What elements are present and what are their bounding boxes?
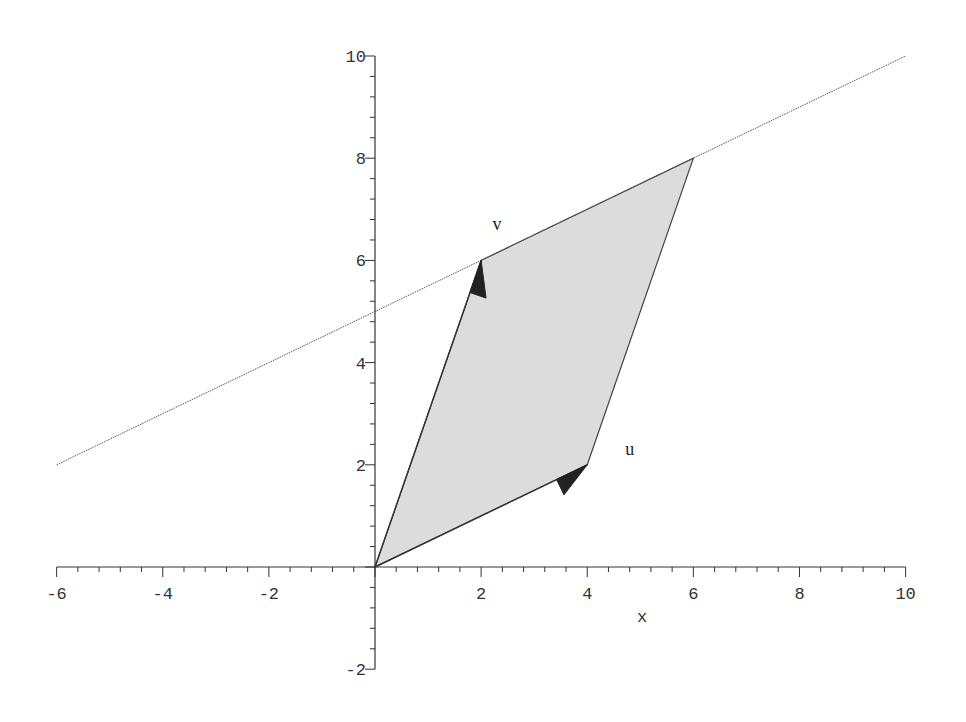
vector-parallelogram-plot: -6-4-2246810-2246810x uv (0, 0, 966, 722)
x-tick-label: -4 (153, 585, 173, 604)
parallelogram (375, 158, 693, 567)
x-tick-label: 6 (688, 585, 698, 604)
parallelogram-shape (375, 158, 693, 567)
x-axis-label: x (637, 608, 647, 627)
y-tick-label: 10 (346, 48, 366, 67)
y-tick-label: 6 (356, 252, 366, 271)
x-tick-label: -6 (46, 585, 66, 604)
vector-label-u: u (625, 439, 634, 459)
vector-label-v: v (493, 214, 502, 234)
x-tick-label: 8 (794, 585, 804, 604)
y-tick-label: 8 (356, 150, 366, 169)
x-tick-label: 4 (582, 585, 592, 604)
x-tick-label: -2 (259, 585, 279, 604)
y-tick-label: -2 (346, 661, 366, 680)
y-tick-label: 2 (356, 457, 366, 476)
x-tick-label: 2 (476, 585, 486, 604)
x-tick-label: 10 (895, 585, 915, 604)
y-tick-label: 4 (356, 355, 366, 374)
